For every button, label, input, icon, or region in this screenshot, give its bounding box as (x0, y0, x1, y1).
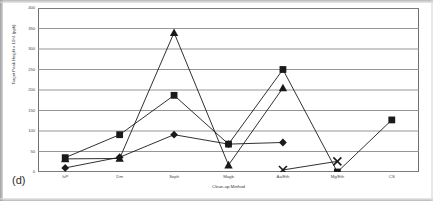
data-point-diamond (279, 139, 287, 147)
scan-edge-top (0, 0, 433, 3)
x-tick-label: CS (389, 174, 395, 179)
y-tick-label: 150 (20, 108, 35, 112)
panel-label: (d) (12, 174, 25, 186)
series-line (65, 33, 283, 165)
y-axis-tick-labels: 050100150200250300350400 (20, 8, 35, 172)
x-tick-label: Dm (116, 174, 123, 179)
data-point-square (334, 169, 341, 172)
series-line (65, 70, 392, 173)
data-point-diamond (170, 131, 178, 139)
y-tick-label: 50 (20, 149, 35, 153)
y-tick-label: 100 (20, 129, 35, 133)
y-tick-label: 200 (20, 88, 35, 92)
data-point-square (171, 92, 178, 99)
series-layer (61, 28, 395, 172)
data-point-square (225, 141, 232, 148)
y-axis-title: Target Peak Height x 10^4 (ppb) (11, 0, 16, 110)
chart-plot-area (38, 8, 419, 172)
data-point-diamond (61, 164, 69, 172)
data-point-triangle (224, 161, 232, 169)
x-tick-label: Aa/Eth (277, 174, 290, 179)
scan-edge-bottom (0, 198, 433, 201)
y-tick-label: 350 (20, 26, 35, 30)
x-tick-label: Magb (223, 174, 234, 179)
data-point-triangle (279, 84, 287, 92)
figure-panel: 050100150200250300350400 Target Peak Hei… (0, 0, 433, 201)
y-tick-label: 400 (20, 6, 35, 10)
scan-edge-left (0, 0, 3, 201)
data-point-square (116, 131, 123, 138)
x-tick-label: IvP (62, 174, 68, 179)
data-point-square (388, 117, 395, 124)
x-tick-label: Mg/Eth (331, 174, 344, 179)
series-line (283, 161, 337, 170)
x-tick-label: Seph (169, 174, 179, 179)
y-tick-label: 300 (20, 47, 35, 51)
data-point-triangle (170, 28, 178, 36)
x-axis-title: Clean-up Method (38, 184, 419, 189)
x-axis-tick-labels: IvPDmSephMagbAa/EthMg/EthCS (38, 174, 419, 184)
data-point-square (280, 66, 287, 73)
data-point-cross (279, 166, 287, 172)
y-tick-label: 250 (20, 67, 35, 71)
